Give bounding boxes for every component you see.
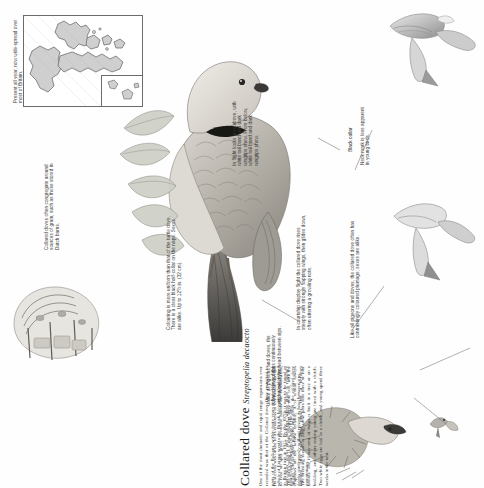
page-title: Collared dove Streptopelia decaocto <box>237 306 253 486</box>
title-scientific-name: Streptopelia decaocto <box>242 328 251 404</box>
annotation-in-flight: In flight looks grey above, with white t… <box>232 100 259 166</box>
annotation-sexes-alike: Like all pigeons and doves, the collared… <box>350 216 361 338</box>
annotation-colouring: Colouring is more uniform than that of t… <box>166 214 182 330</box>
illustration-flying-dove-below <box>388 190 480 288</box>
annotation-dutch-barns: Collared doves often congregate around s… <box>44 160 60 250</box>
annotation-display-flight: In courtship display flight the collared… <box>296 214 312 330</box>
guide-page: Present all year; now wide-spread over m… <box>0 0 484 488</box>
illustration-distant-dove <box>426 410 460 442</box>
illustration-dutch-barn <box>10 272 120 368</box>
annotation-neck-mark: Neck mark is less apparent in young bird… <box>360 103 371 165</box>
article-column-4: The breeding season is long; some pairs … <box>300 366 330 486</box>
illustration-flying-dove-above <box>382 8 482 96</box>
map-caption: Present all year; now wide-spread over m… <box>13 11 24 103</box>
title-common-name: Collared dove <box>237 407 252 486</box>
annotation-black-collar: Black collar <box>348 112 354 152</box>
